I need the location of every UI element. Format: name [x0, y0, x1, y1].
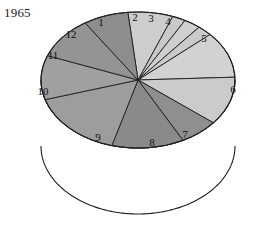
- slice-label-12: 12: [66, 28, 77, 40]
- cylinder-bottom-rim: [41, 146, 235, 214]
- slice-label-4: 4: [165, 15, 171, 27]
- slice-label-5: 5: [201, 32, 207, 44]
- pie-chart-canvas: 123456789101112: [0, 0, 256, 246]
- slice-label-7: 7: [182, 128, 188, 140]
- pie-chart-figure: 1965 123456789101112: [0, 0, 256, 246]
- slice-label-6: 6: [230, 83, 236, 95]
- slice-label-11: 11: [48, 49, 59, 61]
- slice-label-9: 9: [95, 131, 101, 143]
- slice-label-10: 10: [38, 85, 50, 97]
- slice-label-1: 1: [98, 16, 104, 28]
- slice-label-8: 8: [149, 136, 155, 148]
- slice-label-2: 2: [132, 11, 138, 23]
- slice-label-3: 3: [148, 12, 154, 24]
